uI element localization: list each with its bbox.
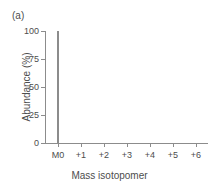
y-axis-line [45,31,46,143]
x-axis-title: Mass isotopomer [0,170,219,182]
panel-label: (a) [12,10,24,22]
x-tick-mark [81,143,82,147]
y-tick-label: 0 [34,139,39,148]
x-tick-label: M0 [52,150,65,160]
x-tick-label: +1 [76,150,86,160]
x-tick-label: +4 [145,150,155,160]
x-tick-mark [173,143,174,147]
y-tick-mark [41,31,45,32]
x-tick-mark [127,143,128,147]
y-tick-mark [41,143,45,144]
x-tick-label: +5 [168,150,178,160]
y-tick-mark [41,115,45,116]
y-tick-mark [41,59,45,60]
bar-M0 [57,31,59,143]
x-tick-mark [150,143,151,147]
x-tick-mark [58,143,59,147]
x-tick-label: +2 [99,150,109,160]
plot-area: 0 25 50 75 100 M0 +1 +2 +3 +4 +5 [45,31,208,143]
y-tick-mark [41,87,45,88]
y-axis-title: Abundance (%) [20,31,34,143]
x-tick-label: +6 [191,150,201,160]
x-tick-mark [104,143,105,147]
figure-panel-a: (a) 0 25 50 75 100 [0,0,219,194]
x-tick-mark [196,143,197,147]
x-tick-label: +3 [122,150,132,160]
